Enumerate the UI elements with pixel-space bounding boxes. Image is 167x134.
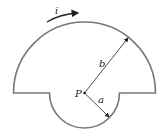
loop-diagram: i P b a [0, 0, 167, 134]
label-inner-radius: a [98, 94, 104, 105]
point-p-dot [83, 92, 86, 95]
label-outer-radius: b [99, 58, 105, 69]
radius-a-line [85, 93, 110, 117]
wire-loop [14, 22, 156, 128]
current-arrow-icon [47, 13, 78, 22]
label-current: i [55, 5, 58, 16]
radius-b-line [85, 38, 129, 93]
label-point-p: P [74, 88, 82, 99]
